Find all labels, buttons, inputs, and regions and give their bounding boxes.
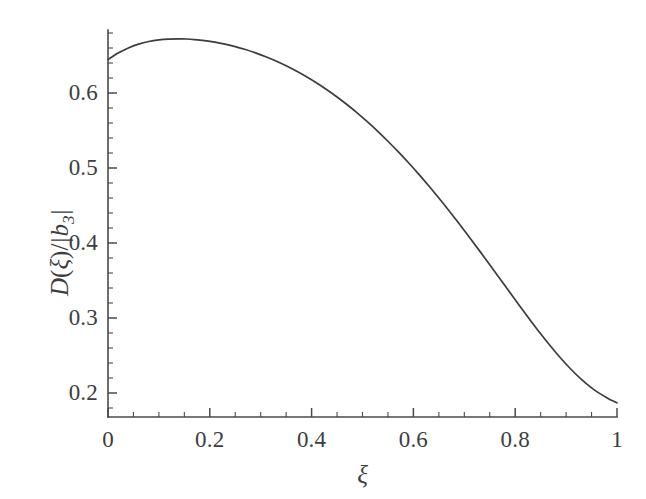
ylabel-xi: ξ <box>46 258 73 269</box>
x-tick-label: 0.8 <box>501 427 530 453</box>
data-curve-line <box>108 39 617 403</box>
x-tick-label: 0.2 <box>195 427 224 453</box>
ylabel-bar-right: | <box>46 208 73 215</box>
ylabel-b: b <box>46 224 73 237</box>
x-tick-label: 0.6 <box>399 427 428 453</box>
chart-figure: 00.20.40.60.81 0.20.30.40.50.6 ξ D(ξ)/|b… <box>0 0 646 499</box>
ylabel-bar-left: | <box>46 236 73 243</box>
ylabel-slash: / <box>46 243 73 250</box>
y-tick-label: 0.2 <box>54 380 98 406</box>
ylabel-close-paren: ) <box>46 250 73 258</box>
y-tick-label: 0.6 <box>54 80 98 106</box>
axes-group <box>108 30 617 417</box>
ylabel-d: D <box>46 277 73 295</box>
y-tick-label: 0.3 <box>54 305 98 331</box>
y-tick-label: 0.5 <box>54 155 98 181</box>
ylabel-subscript: 3 <box>59 215 78 224</box>
x-axis-label: ξ <box>357 461 368 489</box>
x-tick-label: 0 <box>102 427 114 453</box>
x-tick-label: 0.4 <box>297 427 326 453</box>
ylabel-open-paren: ( <box>46 269 73 277</box>
ticks-group <box>108 33 617 417</box>
y-axis-label: D(ξ)/|b3| <box>46 208 79 295</box>
x-tick-label: 1 <box>611 427 623 453</box>
